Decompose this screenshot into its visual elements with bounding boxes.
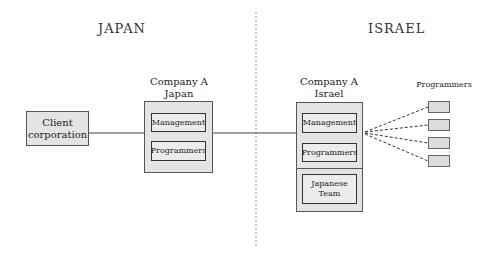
israel-section-divider <box>297 168 362 169</box>
company-japan-title: Company A Japan <box>138 76 220 100</box>
company-israel-title-line2: Israel <box>288 88 370 100</box>
company-israel-node: Management Programmers Japanese Team <box>296 102 363 212</box>
client-corporation-node: Client corporation <box>26 111 89 146</box>
company-israel-title: Company A Israel <box>288 76 370 100</box>
company-israel-title-line1: Company A <box>288 76 370 88</box>
programmer-node-1 <box>428 101 450 113</box>
japanese-team-line1: Japanese <box>311 179 348 189</box>
region-title-japan: JAPAN <box>98 21 146 36</box>
programmers-group-title: Programmers <box>412 79 476 91</box>
client-label-line1: Client <box>42 117 72 129</box>
programmer-node-2 <box>428 119 450 131</box>
japanese-team-line2: Team <box>319 189 341 199</box>
region-title-israel: ISRAEL <box>368 21 425 36</box>
israel-management-unit: Management <box>302 113 357 133</box>
programmer-node-3 <box>428 137 450 149</box>
client-label-line2: corporation <box>28 129 87 141</box>
japanese-team-unit: Japanese Team <box>302 174 357 204</box>
israel-programmers-unit: Programmers <box>302 143 357 162</box>
company-japan-node: Management Programmers <box>144 101 213 173</box>
company-japan-title-line1: Company A <box>138 76 220 88</box>
japan-programmers-unit: Programmers <box>151 141 206 161</box>
programmer-node-4 <box>428 155 450 167</box>
company-japan-title-line2: Japan <box>138 88 220 100</box>
japan-management-unit: Management <box>151 113 206 132</box>
